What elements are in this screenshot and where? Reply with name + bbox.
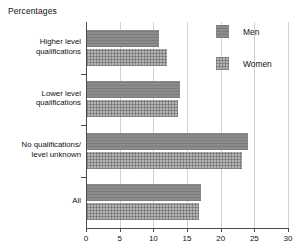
bar-women-1[interactable] (87, 100, 178, 117)
x-tick-label: 20 (216, 234, 225, 243)
legend-item-men[interactable]: Men (216, 25, 259, 38)
category-label-0: Higher levelqualifications (0, 37, 81, 56)
gridline (288, 22, 289, 228)
legend-label-men: Men (243, 27, 259, 37)
x-tick-label: 5 (117, 234, 121, 243)
category-label-line: All (0, 196, 81, 206)
bar-men-3[interactable] (87, 184, 201, 201)
category-label-line: Lower level (0, 89, 81, 99)
chart-title: Percentages (8, 6, 57, 16)
legend-swatch-women-icon (216, 57, 229, 70)
legend-item-women[interactable]: Women (216, 57, 272, 70)
x-tick (254, 228, 255, 232)
bar-men-1[interactable] (87, 81, 180, 98)
chart-container: Percentages 051015202530 Higher levelqua… (0, 0, 307, 252)
category-label-2: No qualifications/level unknown (0, 140, 81, 159)
gridline (221, 22, 222, 228)
category-label-line: No qualifications/ (0, 140, 81, 150)
category-label-line: level unknown (0, 150, 81, 160)
y-tick (81, 177, 86, 178)
x-tick-label: 10 (149, 234, 158, 243)
category-label-line: qualifications (0, 98, 81, 108)
bar-women-3[interactable] (87, 203, 199, 220)
x-tick-label: 15 (183, 234, 192, 243)
x-tick (153, 228, 154, 232)
x-tick-label: 30 (284, 234, 293, 243)
x-tick (288, 228, 289, 232)
bar-women-0[interactable] (87, 49, 167, 66)
x-tick (187, 228, 188, 232)
x-tick-label: 25 (250, 234, 259, 243)
category-label-1: Lower levelqualifications (0, 89, 81, 108)
category-label-line: Higher level (0, 37, 81, 47)
bar-men-2[interactable] (87, 133, 248, 150)
x-tick (86, 228, 87, 232)
x-tick-label: 0 (84, 234, 88, 243)
legend-swatch-men-icon (216, 25, 229, 38)
bar-women-2[interactable] (87, 152, 242, 169)
category-label-line: qualifications (0, 47, 81, 57)
gridline (254, 22, 255, 228)
x-tick (120, 228, 121, 232)
y-tick (81, 125, 86, 126)
category-label-3: All (0, 196, 81, 206)
x-tick (221, 228, 222, 232)
y-tick (81, 74, 86, 75)
legend-label-women: Women (243, 59, 272, 69)
bar-men-0[interactable] (87, 30, 159, 47)
